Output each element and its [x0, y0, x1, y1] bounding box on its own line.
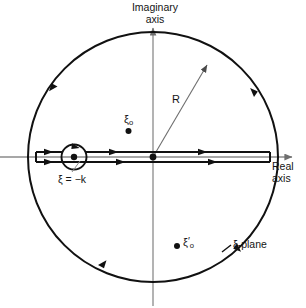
- plane-label: ξ-plane: [233, 239, 267, 251]
- imaginary-axis-label-line1: Imaginary: [132, 1, 178, 13]
- branch-cut-arrow-upper-mid: [109, 149, 118, 155]
- branch-cut-arrow-upper-right: [198, 149, 207, 155]
- branch-point-label: ξ = −k: [58, 174, 86, 186]
- pole-marker-xi-o-prime: [174, 243, 180, 249]
- pole-label-xi-o-subscript: o: [129, 118, 133, 127]
- real-axis-label-line2: axis: [272, 172, 291, 184]
- branch-cut-arrow-upper-left: [44, 149, 53, 155]
- real-axis-label: Real axis: [272, 161, 306, 185]
- diagram-canvas: [0, 0, 306, 308]
- pole-label-xi-o-prime-subscript: o: [190, 241, 194, 250]
- branch-cut-arrow-lower-left: [44, 159, 53, 165]
- origin-marker: [150, 154, 157, 161]
- pole-label-xi-o-prime: ξ′o: [183, 236, 194, 249]
- plane-label-leader: [222, 245, 231, 252]
- pole-label-xi-o: ξo: [124, 113, 133, 126]
- imaginary-axis-label-line2: axis: [146, 13, 165, 25]
- pole-marker-branch-point: [71, 154, 77, 160]
- contour-arrow-lower-left: [98, 258, 109, 269]
- branch-cut-arrow-lower-mid: [116, 159, 125, 165]
- imaginary-axis-label: Imaginary axis: [118, 2, 192, 26]
- xi-plane-contour-figure: Imaginary axis Real axis R ξo ξ′o ξ = −k…: [0, 0, 306, 308]
- real-axis-label-line1: Real: [272, 160, 294, 172]
- radius-indicator: [153, 65, 207, 157]
- pole-marker-xi-o: [126, 128, 132, 134]
- branch-cut-arrow-lower-right: [208, 159, 217, 165]
- radius-label: R: [172, 93, 180, 105]
